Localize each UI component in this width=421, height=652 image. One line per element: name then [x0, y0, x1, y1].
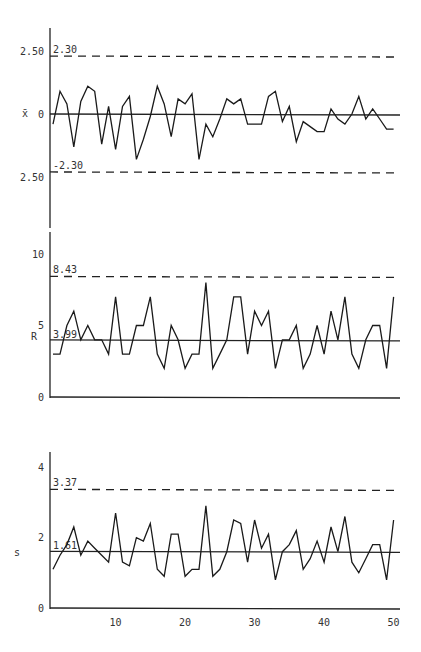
y-tick-label: 5 — [38, 320, 44, 331]
data-series — [53, 86, 394, 159]
lcl-label: -2.30 — [53, 160, 83, 171]
y-axis-label: x̄ — [22, 108, 28, 119]
x-tick-label: 40 — [318, 617, 330, 628]
ucl-line — [50, 489, 400, 490]
x-tick-label: 50 — [388, 617, 400, 628]
y-tick-label: 0 — [38, 603, 44, 614]
ucl-label: 8.43 — [53, 264, 77, 275]
y-tick-label: 2.50 — [20, 172, 44, 183]
ucl-label: 2.30 — [53, 44, 77, 55]
x-tick-label: 10 — [110, 617, 122, 628]
xbar-chart: 2.5002.50x̄2.30-2.30 — [20, 28, 400, 228]
center-line — [50, 114, 400, 115]
y-tick-label: 0 — [38, 109, 44, 120]
stdev-chart: 420s3.371.611020304050 — [14, 452, 400, 628]
ucl-label: 3.37 — [53, 477, 77, 488]
x-axis — [50, 397, 400, 398]
y-tick-label: 0 — [38, 392, 44, 403]
x-tick-label: 30 — [249, 617, 261, 628]
y-tick-label: 4 — [38, 462, 44, 473]
ucl-line — [50, 56, 400, 57]
y-tick-label: 2.50 — [20, 46, 44, 57]
range-chart: 1050R8.433.99 — [31, 232, 400, 403]
center-line — [50, 551, 400, 552]
data-series — [53, 283, 394, 369]
center-label: 1.61 — [53, 540, 77, 551]
y-axis-label: s — [14, 547, 20, 558]
y-tick-label: 10 — [32, 249, 44, 260]
x-axis — [50, 608, 400, 609]
y-axis-label: R — [31, 331, 38, 342]
data-series — [53, 506, 394, 580]
ucl-line — [50, 276, 400, 277]
lcl-line — [50, 172, 400, 173]
y-tick-label: 2 — [38, 532, 44, 543]
control-charts: 2.5002.50x̄2.30-2.301050R8.433.99420s3.3… — [0, 0, 421, 652]
x-tick-label: 20 — [179, 617, 191, 628]
